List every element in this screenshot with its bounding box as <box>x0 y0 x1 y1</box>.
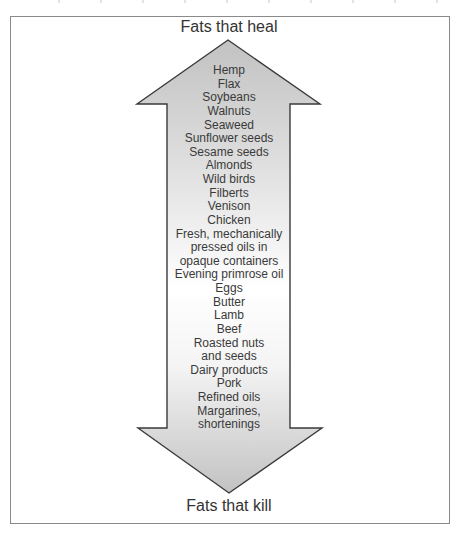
list-item: opaque containers <box>129 255 329 269</box>
list-item: Roasted nuts <box>129 337 329 351</box>
list-item: Hemp <box>129 64 329 78</box>
list-item: Almonds <box>129 159 329 173</box>
list-item: Flax <box>129 78 329 92</box>
fat-sources-list: Hemp Flax Soybeans Walnuts Seaweed Sunfl… <box>129 64 329 432</box>
list-item: Eggs <box>129 282 329 296</box>
list-item: Margarines, <box>129 405 329 419</box>
list-item: shortenings <box>129 418 329 432</box>
list-item: Butter <box>129 296 329 310</box>
list-item: Seaweed <box>129 119 329 133</box>
list-item: Evening primrose oil <box>129 268 329 282</box>
list-item: Dairy products <box>129 364 329 378</box>
list-item: Sunflower seeds <box>129 132 329 146</box>
bottom-label-fats-that-kill: Fats that kill <box>0 497 459 515</box>
list-item: Wild birds <box>129 173 329 187</box>
list-item: Beef <box>129 323 329 337</box>
list-item: and seeds <box>129 350 329 364</box>
list-item: Venison <box>129 200 329 214</box>
list-item: Sesame seeds <box>129 146 329 160</box>
list-item: pressed oils in <box>129 241 329 255</box>
list-item: Filberts <box>129 187 329 201</box>
list-item: Lamb <box>129 309 329 323</box>
list-item: Pork <box>129 377 329 391</box>
list-item: Fresh, mechanically <box>129 228 329 242</box>
list-item: Chicken <box>129 214 329 228</box>
top-label-fats-that-heal: Fats that heal <box>0 18 459 36</box>
list-item: Soybeans <box>129 91 329 105</box>
list-item: Walnuts <box>129 105 329 119</box>
list-item: Refined oils <box>129 391 329 405</box>
